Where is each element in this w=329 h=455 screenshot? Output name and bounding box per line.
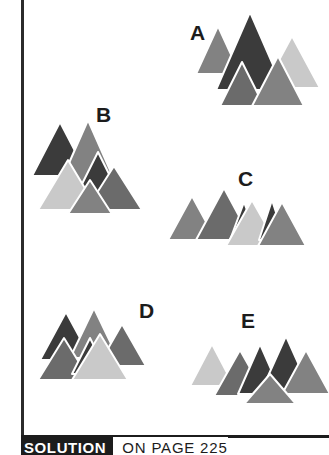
solution-banner: SOLUTION ON PAGE 225 bbox=[21, 437, 329, 455]
cluster-label-a: A bbox=[190, 22, 205, 43]
mountain-cluster-d bbox=[36, 300, 156, 382]
solution-page-reference: ON PAGE 225 bbox=[113, 437, 227, 455]
mountain-cluster-a bbox=[196, 4, 322, 106]
puzzle-canvas: ABCDE bbox=[0, 0, 329, 437]
solution-label: SOLUTION bbox=[21, 437, 113, 455]
cluster-label-c: C bbox=[238, 168, 253, 189]
cluster-label-e: E bbox=[241, 310, 255, 331]
cluster-label-d: D bbox=[139, 300, 154, 321]
cluster-label-b: B bbox=[96, 104, 111, 125]
puzzle-page: ABCDE SOLUTION ON PAGE 225 bbox=[0, 0, 329, 455]
mountain-cluster-b bbox=[30, 114, 150, 214]
mountain-cluster-c bbox=[168, 178, 304, 250]
